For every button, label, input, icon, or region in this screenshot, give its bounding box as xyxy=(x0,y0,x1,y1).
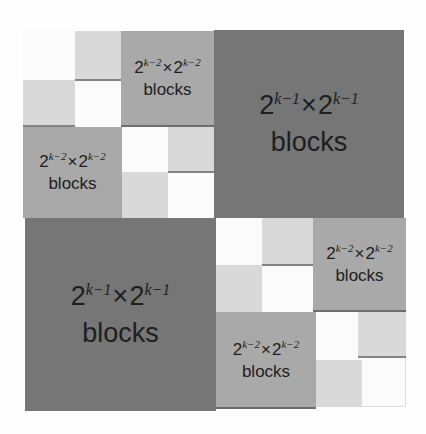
small-block-light xyxy=(122,172,168,218)
small-block-light xyxy=(216,265,262,312)
large-block: 2k−1×2k−1 blocks xyxy=(25,218,216,411)
small-block-white xyxy=(316,312,358,360)
medium-block: 2k−2×2k−2 blocks xyxy=(23,127,122,218)
block-label: 2k−1×2k−1 blocks xyxy=(25,281,216,349)
block-size-expression: 2k−2×2k−2 xyxy=(121,58,214,78)
large-block: 2k−1×2k−1 blocks xyxy=(214,30,404,218)
block-word: blocks xyxy=(121,80,214,100)
block-word: blocks xyxy=(214,127,404,158)
small-block-white xyxy=(75,81,121,127)
small-block-white xyxy=(216,218,262,265)
block-label: 2k−2×2k−2 blocks xyxy=(23,152,122,194)
block-word: blocks xyxy=(313,266,406,286)
block-size-expression: 2k−2×2k−2 xyxy=(216,340,316,360)
block-size-expression: 2k−1×2k−1 xyxy=(214,90,404,121)
block-label: 2k−2×2k−2 blocks xyxy=(313,244,406,286)
small-block-white xyxy=(262,266,313,312)
block-word: blocks xyxy=(25,318,216,349)
block-size-expression: 2k−2×2k−2 xyxy=(313,244,406,264)
block-label: 2k−1×2k−1 blocks xyxy=(214,90,404,158)
block-label: 2k−2×2k−2 blocks xyxy=(216,340,316,382)
small-block-light xyxy=(23,80,75,127)
block-word: blocks xyxy=(216,362,316,382)
small-block-light xyxy=(316,360,362,407)
small-block-white xyxy=(23,31,75,80)
small-block-white xyxy=(362,358,406,407)
small-block-light xyxy=(168,127,214,173)
block-word: blocks xyxy=(23,174,122,194)
small-block-white xyxy=(168,173,214,218)
medium-block: 2k−2×2k−2 blocks xyxy=(121,31,214,127)
medium-block: 2k−2×2k−2 blocks xyxy=(216,312,316,409)
small-block-white xyxy=(122,127,168,172)
small-block-light xyxy=(358,312,406,358)
block-size-expression: 2k−1×2k−1 xyxy=(25,281,216,312)
small-block-light xyxy=(75,31,121,81)
block-label: 2k−2×2k−2 blocks xyxy=(121,58,214,100)
medium-block: 2k−2×2k−2 blocks xyxy=(313,218,406,312)
block-size-expression: 2k−2×2k−2 xyxy=(23,152,122,172)
small-block-light xyxy=(262,218,313,266)
